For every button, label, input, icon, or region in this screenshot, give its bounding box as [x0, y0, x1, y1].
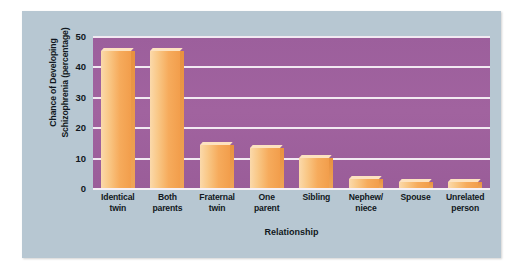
x-tick-label-line2: person	[451, 203, 479, 213]
bar	[250, 148, 280, 188]
x-tick-label-line1: Identical	[101, 192, 135, 202]
y-axis-title-line1: Chance of Developing	[48, 38, 58, 126]
x-tick-label-line2: parents	[152, 203, 182, 213]
bar-side-face	[131, 51, 135, 188]
y-tick-label: 30	[60, 91, 86, 102]
gridline	[93, 36, 490, 38]
x-axis-title: Relationship	[93, 227, 490, 237]
bar-top-face	[299, 155, 332, 158]
bar-side-face	[180, 51, 184, 188]
x-tick-label-line1: Both	[158, 192, 177, 202]
bar-side-face	[230, 145, 234, 188]
bar-top-face	[200, 142, 233, 145]
x-tick-label-line1: Spouse	[400, 192, 430, 202]
bar-top-face	[448, 179, 481, 182]
x-tick-label-line1: Nephew/	[349, 192, 383, 202]
x-axis-tick-labels: IdenticaltwinBothparentsFraternaltwinOne…	[93, 192, 490, 222]
x-tick-label-line1: One	[259, 192, 275, 202]
chart-card: Chance of Developing Schizophrenia (perc…	[22, 11, 501, 258]
x-tick-label-line2: twin	[110, 203, 127, 213]
bar-side-face	[329, 158, 333, 188]
x-tick-label: Unrelatedperson	[434, 192, 496, 213]
bar-top-face	[250, 145, 283, 148]
x-tick-label-line2: parent	[254, 203, 279, 213]
y-tick-label: 10	[60, 152, 86, 163]
y-tick-label: 0	[60, 183, 86, 194]
bar	[349, 179, 379, 188]
bar	[299, 158, 329, 188]
y-tick-label: 20	[60, 122, 86, 133]
bar	[101, 51, 131, 188]
x-tick-label-line1: Sibling	[303, 192, 331, 202]
bar-top-face	[399, 179, 432, 182]
bar	[200, 145, 230, 188]
y-tick-label: 40	[60, 61, 86, 72]
x-axis-baseline	[93, 188, 490, 190]
bar	[150, 51, 180, 188]
x-tick-label-line2: twin	[209, 203, 226, 213]
bar-side-face	[280, 148, 284, 188]
bar-top-face	[150, 48, 183, 51]
plot-area	[93, 36, 490, 188]
y-axis-tick-labels: 01020304050	[60, 31, 86, 191]
x-tick-label-line2: niece	[355, 203, 376, 213]
bar-top-face	[101, 48, 134, 51]
bar-side-face	[379, 179, 383, 188]
x-tick-label-line1: Unrelated	[446, 192, 484, 202]
bar-top-face	[349, 176, 382, 179]
x-tick-label-line1: Fraternal	[199, 192, 234, 202]
y-tick-label: 50	[60, 31, 86, 42]
